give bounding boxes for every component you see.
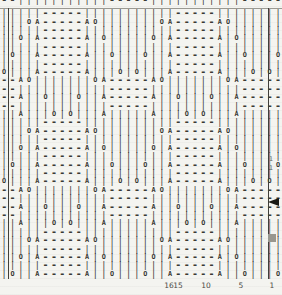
chart-cell: |: [91, 228, 99, 236]
chart-cell: |: [75, 0, 83, 4]
chart-cell: -: [58, 270, 66, 278]
chart-cell: |: [25, 270, 33, 278]
chart-cell: |: [133, 169, 141, 177]
chart-cell: |: [174, 194, 182, 202]
chart-cell: |: [166, 135, 174, 143]
chart-cell: |: [199, 211, 207, 219]
chart-cell: -: [199, 270, 207, 278]
chart-cell: |: [91, 270, 99, 278]
chart-cell: |: [216, 261, 224, 269]
chart-cell: |: [249, 169, 257, 177]
chart-cell: |: [166, 152, 174, 160]
chart-cell: -: [207, 270, 215, 278]
chart-cell: |: [166, 169, 174, 177]
chart-cell: |: [216, 43, 224, 51]
chart-cell: |: [216, 244, 224, 252]
chart-cell: |: [224, 68, 232, 76]
row-start-arrow-icon: [268, 198, 279, 206]
chart-cell: |: [108, 152, 116, 160]
chart-cell: |: [232, 194, 240, 202]
gray-square-marker-icon: [268, 234, 276, 242]
chart-cell: |: [149, 101, 157, 109]
chart-cell: |: [8, 43, 16, 51]
chart-cell: |: [232, 211, 240, 219]
chart-row: --|||||||||||-----|||||||||||-----: [0, 194, 282, 202]
chart-cell: |: [108, 261, 116, 269]
chart-cell: |: [158, 0, 166, 4]
chart-cell: |: [166, 26, 174, 34]
chart-cell: |: [241, 261, 249, 269]
chart-cell: |: [83, 9, 91, 17]
chart-cell: |: [149, 0, 157, 4]
chart-cell: |: [33, 244, 41, 252]
chart-cell: |: [17, 26, 25, 34]
chart-cell: O: [141, 270, 149, 278]
chart-cell: |: [100, 244, 108, 252]
chart-cell: |: [83, 261, 91, 269]
chart-cell: |: [100, 211, 108, 219]
chart-cell: |: [149, 68, 157, 76]
chart-cell: |: [100, 68, 108, 76]
chart-cell: O: [274, 270, 282, 278]
chart-cell: -: [141, 0, 149, 4]
chart-row: |O||A-----A||O|||O||A-----A||O|||O: [0, 270, 282, 278]
chart-cell: |: [8, 152, 16, 160]
chart-cell: |: [183, 211, 191, 219]
chart-cell: |: [216, 228, 224, 236]
chart-cell: |: [216, 9, 224, 17]
chart-cell: -: [75, 270, 83, 278]
chart-cell: |: [17, 68, 25, 76]
chart-cell: |: [17, 101, 25, 109]
chart-cell: |: [25, 118, 33, 126]
chart-cell: -: [257, 0, 265, 4]
chart-grid: |||||-----|||||||||||-----|||||||||||OA-…: [0, 9, 282, 278]
chart-cell: -: [133, 0, 141, 4]
chart-cell: |: [149, 135, 157, 143]
chart-cell: |: [216, 169, 224, 177]
chart-cell: |: [17, 270, 25, 278]
chart-cell: |: [158, 270, 166, 278]
chart-cell: |: [100, 26, 108, 34]
chart-cell: |: [33, 152, 41, 160]
chart-cell: |: [232, 177, 240, 185]
stitch-number-1: 1: [270, 281, 275, 290]
chart-cell: |: [149, 85, 157, 93]
chart-cell: |: [158, 9, 166, 17]
chart-cell: |: [91, 118, 99, 126]
chart-cell: |: [33, 118, 41, 126]
chart-cell: |: [199, 101, 207, 109]
chart-cell: |: [241, 152, 249, 160]
chart-cell: -: [249, 0, 257, 4]
chart-cell: A: [83, 270, 91, 278]
chart-cell: |: [17, 244, 25, 252]
chart-cell: |: [116, 270, 124, 278]
chart-cell: |: [41, 0, 49, 4]
chart-cell: |: [224, 118, 232, 126]
chart-cell: |: [166, 228, 174, 236]
chart-cell: |: [207, 85, 215, 93]
chart-cell: |: [257, 270, 265, 278]
chart-cell: |: [216, 135, 224, 143]
chart-cell: -: [266, 0, 274, 4]
chart-cell: |: [50, 101, 58, 109]
chart-cell: |: [224, 270, 232, 278]
chart-cell: |: [100, 177, 108, 185]
chart-cell: |: [174, 0, 182, 4]
chart-cell: |: [33, 169, 41, 177]
chart-cell: |: [83, 169, 91, 177]
chart-cell: |: [100, 194, 108, 202]
chart-cell: |: [232, 101, 240, 109]
chart-cell: O: [241, 270, 249, 278]
chart-cell: |: [141, 152, 149, 160]
chart-cell: |: [100, 0, 108, 4]
chart-cell: |: [141, 261, 149, 269]
chart-cell: |: [232, 244, 240, 252]
chart-cell: |: [17, 135, 25, 143]
chart-cell: -: [274, 0, 282, 4]
chart-cell: |: [133, 270, 141, 278]
chart-cell: |: [274, 261, 282, 269]
chart-cell: |: [183, 0, 191, 4]
chart-cell: |: [41, 85, 49, 93]
chart-cell: |: [216, 0, 224, 4]
chart-cell: |: [50, 0, 58, 4]
